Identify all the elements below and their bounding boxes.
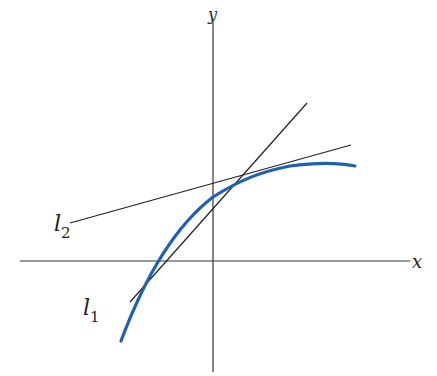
y-axis-label: y: [207, 5, 218, 24]
curve: [121, 163, 355, 341]
label-l2: l2: [54, 211, 71, 242]
diagram: x y l2 l1: [0, 0, 437, 376]
line-l1: [130, 103, 307, 302]
label-l1: l1: [83, 295, 100, 326]
x-axis-label: x: [412, 251, 422, 272]
